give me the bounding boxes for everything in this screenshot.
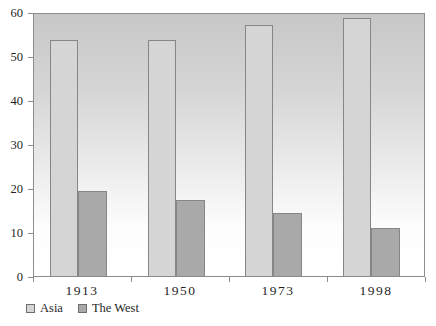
x-tick-label: 1998 xyxy=(327,283,425,299)
x-tick-label: 1973 xyxy=(229,283,327,299)
x-tick-mark xyxy=(425,277,426,282)
y-tick-label: 60 xyxy=(11,7,24,20)
y-tick-label: 0 xyxy=(17,271,23,284)
x-axis-labels: 1913195019731998 xyxy=(33,283,425,299)
legend-label-asia: Asia xyxy=(40,302,63,315)
legend-swatch-asia xyxy=(26,304,35,313)
bar-asia-1950 xyxy=(148,40,176,276)
y-tick-label: 50 xyxy=(11,51,24,64)
legend-item-the-west: The West xyxy=(78,302,139,315)
x-tick-mark xyxy=(327,277,328,282)
legend: AsiaThe West xyxy=(26,302,139,315)
y-tick-label: 10 xyxy=(11,227,24,240)
x-tick-mark xyxy=(131,277,132,282)
y-tick-label: 40 xyxy=(11,95,24,108)
legend-swatch-the-west xyxy=(78,304,87,313)
y-tick-label: 20 xyxy=(11,183,24,196)
bar-group-1913 xyxy=(34,14,132,276)
y-tick-mark xyxy=(28,189,33,190)
bar-chart-figure: 0102030405060 1913195019731998 AsiaThe W… xyxy=(0,0,436,326)
bar-the-west-1998 xyxy=(371,228,400,276)
legend-item-asia: Asia xyxy=(26,302,63,315)
y-tick-mark xyxy=(28,145,33,146)
bar-asia-1913 xyxy=(50,40,78,276)
bar-the-west-1950 xyxy=(176,200,205,276)
x-axis-ticks xyxy=(33,277,425,282)
bar-the-west-1913 xyxy=(78,191,107,276)
bar-group-1950 xyxy=(132,14,230,276)
bar-asia-1998 xyxy=(343,18,371,276)
bar-group-1998 xyxy=(327,14,425,276)
y-tick-mark xyxy=(28,57,33,58)
bar-group-1973 xyxy=(229,14,327,276)
y-tick-mark xyxy=(28,13,33,14)
y-tick-mark xyxy=(28,101,33,102)
x-tick-mark xyxy=(33,277,34,282)
x-tick-label: 1950 xyxy=(131,283,229,299)
y-axis: 0102030405060 xyxy=(0,13,33,277)
bar-asia-1973 xyxy=(245,25,273,276)
y-tick-label: 30 xyxy=(11,139,24,152)
y-tick-mark xyxy=(28,233,33,234)
legend-label-the-west: The West xyxy=(92,302,139,315)
x-tick-label: 1913 xyxy=(33,283,131,299)
x-tick-mark xyxy=(229,277,230,282)
bar-the-west-1973 xyxy=(273,213,302,276)
plot-area xyxy=(33,13,425,277)
